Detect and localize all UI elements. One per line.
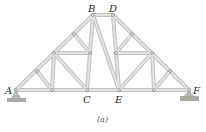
- label-a: A: [4, 85, 12, 96]
- label-f: F: [192, 85, 201, 96]
- truss-members-inner: [16, 15, 189, 90]
- label-c: C: [83, 94, 91, 105]
- label-d: D: [108, 3, 117, 14]
- truss-diagram: A B D C E F (a): [0, 0, 206, 132]
- label-e: E: [114, 94, 123, 105]
- label-b: B: [87, 3, 95, 14]
- figure-caption: (a): [97, 115, 108, 124]
